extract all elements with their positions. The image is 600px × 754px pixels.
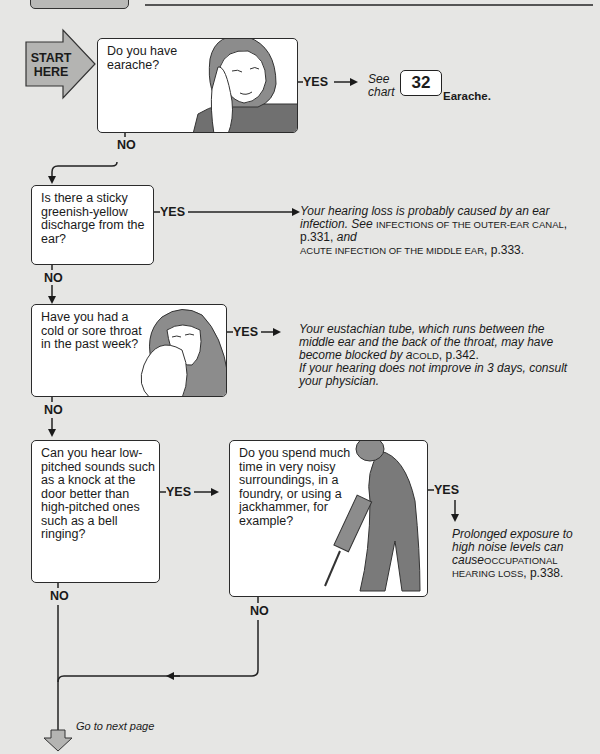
link-middle-ear-infection[interactable]: ACUTE INFECTION OF THE MIDDLE EAR bbox=[300, 245, 484, 256]
see-chart-text: Seechart bbox=[368, 73, 395, 99]
question-text: Do you spend much time in very noisy sur… bbox=[239, 447, 354, 528]
no-label: NO bbox=[50, 589, 69, 603]
answer-eustachian-tube: Your eustachian tube, which runs between… bbox=[299, 323, 569, 388]
go-to-next-page-link[interactable]: Go to next page bbox=[76, 720, 154, 733]
start-here-label: STARTHERE bbox=[29, 51, 73, 79]
link-cold[interactable]: COLD bbox=[412, 350, 438, 361]
link-outer-ear-infection[interactable]: INFECTIONS OF THE OUTER-EAR CANAL bbox=[376, 219, 564, 230]
question-box-noisy-surroundings: Do you spend much time in very noisy sur… bbox=[229, 440, 428, 597]
answer-ear-infection: Your hearing loss is probably caused by … bbox=[300, 205, 580, 257]
yes-label: YES bbox=[434, 483, 459, 497]
question-text: Can you hear low-pitched sounds such as … bbox=[41, 447, 159, 542]
no-label: NO bbox=[250, 604, 269, 618]
question-box-low-pitched: Can you hear low-pitched sounds such as … bbox=[31, 440, 160, 583]
question-text: Do you have earache? bbox=[107, 45, 207, 72]
question-text: Is there a sticky greenish-yellow discha… bbox=[41, 192, 151, 246]
yes-label: YES bbox=[166, 485, 191, 499]
yes-label: YES bbox=[160, 205, 185, 219]
no-label: NO bbox=[44, 271, 63, 285]
question-text: Have you had a cold or sore throat in th… bbox=[41, 311, 153, 352]
no-label: NO bbox=[117, 138, 136, 152]
yes-label: YES bbox=[303, 75, 328, 89]
chart-title[interactable]: Earache. bbox=[443, 90, 491, 102]
question-box-cold: Have you had a cold or sore throat in th… bbox=[31, 304, 227, 397]
question-box-discharge: Is there a sticky greenish-yellow discha… bbox=[31, 185, 154, 265]
no-label: NO bbox=[44, 403, 63, 417]
question-box-earache: Do you have earache? bbox=[97, 38, 298, 133]
answer-occupational-hearing-loss: Prolonged exposure to high noise levels … bbox=[452, 528, 587, 580]
chart-32-reference[interactable]: 32 bbox=[400, 70, 442, 96]
yes-label: YES bbox=[233, 325, 258, 339]
